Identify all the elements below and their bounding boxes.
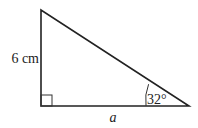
triangle-diagram: 6 cm a 32° <box>0 0 198 128</box>
angle-label: 32° <box>147 92 167 107</box>
vertical-side-label: 6 cm <box>11 51 39 66</box>
triangle <box>41 10 189 106</box>
right-angle-marker <box>41 95 52 106</box>
base-label: a <box>110 110 117 125</box>
